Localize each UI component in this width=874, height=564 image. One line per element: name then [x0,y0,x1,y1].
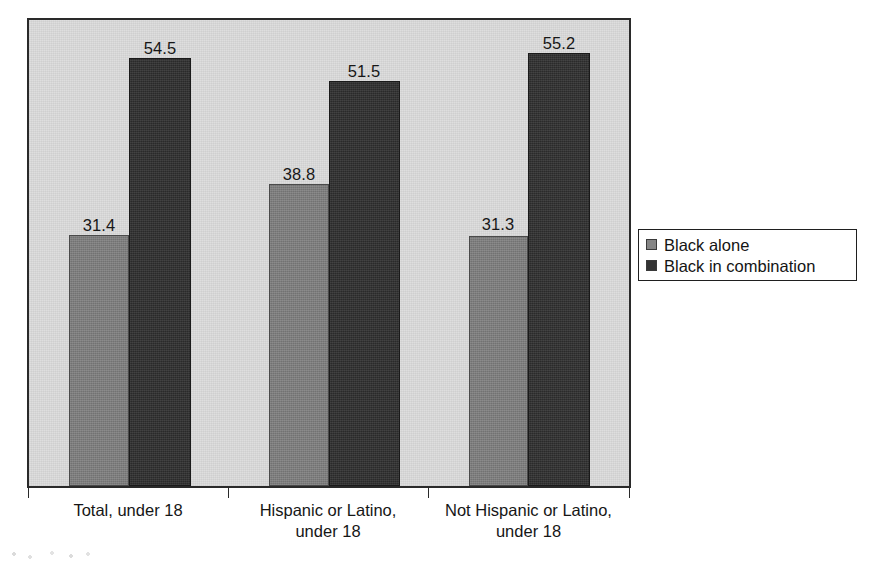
legend-item-black-alone: Black alone [646,234,850,255]
bar-value-label-b-1: 51.5 [332,62,396,81]
bar-series-a-cat-1 [269,184,329,486]
bar-series-b-cat-0 [129,58,191,486]
legend-item-black-in-combination: Black in combination [646,255,850,276]
bar-value-label-b-0: 54.5 [128,39,192,58]
x-axis-label-2-line2: under 18 [428,521,629,542]
bar-series-a-cat-2 [469,236,528,486]
bar-chart-figure: 31.4 54.5 38.8 51.5 31.3 55.2 Total, und… [0,0,874,564]
x-axis-tick-3 [629,488,630,498]
legend-label-series-a: Black alone [664,236,749,254]
x-axis-label-2: Not Hispanic or Latino, under 18 [428,500,629,542]
x-axis-tick-0 [28,488,29,498]
bar-value-label-a-0: 31.4 [67,216,131,235]
x-axis-label-0-line1: Total, under 18 [73,501,182,519]
legend-label-series-b: Black in combination [664,257,815,275]
bar-value-label-a-1: 38.8 [267,165,331,184]
legend-swatch-icon-series-a [646,239,657,250]
x-axis-tick-2 [428,488,429,498]
x-axis-label-1-line1: Hispanic or Latino, [260,501,397,519]
bar-value-label-a-2: 31.3 [466,215,530,234]
x-axis-label-1-line2: under 18 [228,521,428,542]
legend-swatch-icon-series-b [646,260,657,271]
x-axis-label-0: Total, under 18 [28,500,228,521]
scan-artifact [8,548,98,562]
bar-series-a-cat-0 [69,235,129,486]
x-axis-label-1: Hispanic or Latino, under 18 [228,500,428,542]
plot-area: 31.4 54.5 38.8 51.5 31.3 55.2 [27,18,631,488]
x-axis-tick-1 [228,488,229,498]
bar-series-b-cat-2 [528,53,590,486]
bar-value-label-b-2: 55.2 [527,34,591,53]
chart-legend: Black alone Black in combination [638,229,857,281]
x-axis-label-2-line1: Not Hispanic or Latino, [445,501,612,519]
bar-series-b-cat-1 [329,81,400,486]
